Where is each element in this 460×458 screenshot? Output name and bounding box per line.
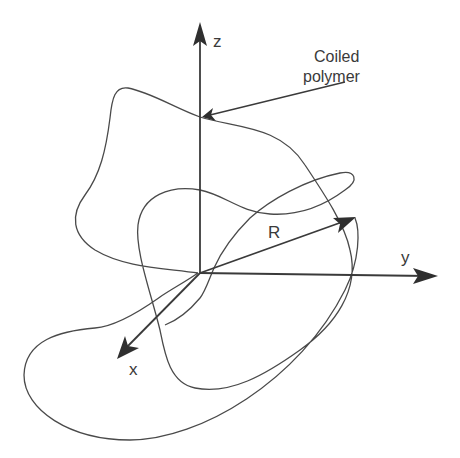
x-axis-arrowhead-icon <box>117 336 139 359</box>
annotation-label-line2: polymer <box>303 68 361 85</box>
y-axis-line <box>200 273 428 276</box>
polymer-coil-curve <box>24 88 358 440</box>
annotation-label-line1: Coiled <box>314 48 359 65</box>
y-axis-label: y <box>401 248 410 267</box>
r-vector-label: R <box>268 223 280 242</box>
annotation-pointer-line <box>210 82 345 115</box>
diagram-canvas: z y x R Coiled polymer <box>0 0 460 458</box>
z-axis-label: z <box>213 32 222 51</box>
x-axis-label: x <box>129 360 138 379</box>
polymer-diagram: z y x R Coiled polymer <box>0 0 460 458</box>
